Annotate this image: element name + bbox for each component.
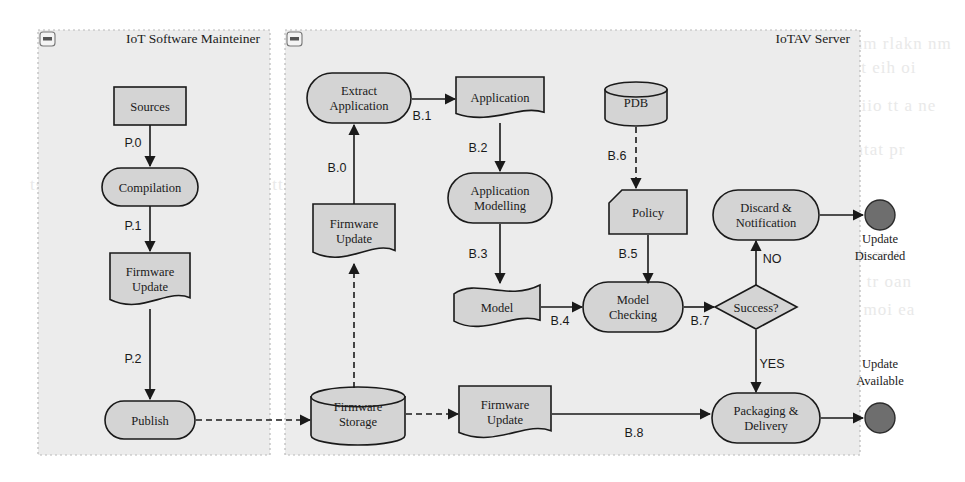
edge-label: B.7 xyxy=(691,314,710,328)
pane-title: IoT Software Mainteiner xyxy=(126,31,260,46)
diagram-canvas: ernai ypsxh den. Tae inyjprevptcnm rlakn… xyxy=(0,0,965,482)
minimize-icon[interactable] xyxy=(40,32,55,46)
svg-text:UpdateAvailable: UpdateAvailable xyxy=(856,357,904,388)
edge-label: P.1 xyxy=(124,219,141,233)
node-label: Sources xyxy=(130,100,170,114)
node-label: ApplicationModelling xyxy=(470,184,530,213)
node-label: Application xyxy=(470,91,530,105)
node-extract_app[interactable]: ExtractApplication xyxy=(307,73,411,123)
node-pdb[interactable]: PDB xyxy=(605,82,667,126)
node-fw_storage[interactable]: FirmwareStorage xyxy=(311,387,405,445)
node-compilation[interactable]: Compilation xyxy=(102,168,198,206)
edge-label: B.6 xyxy=(608,149,627,163)
node-app_model[interactable]: ApplicationModelling xyxy=(448,173,552,223)
node-label: Policy xyxy=(632,206,665,220)
node-label: Success? xyxy=(733,301,779,315)
node-label: FirmwareStorage xyxy=(334,400,383,429)
pane-title: IoTAV Server xyxy=(775,31,850,46)
node-label: Model xyxy=(481,301,514,315)
node-label: Publish xyxy=(131,414,169,428)
edge-label: B.1 xyxy=(413,109,432,123)
node-end_discard[interactable] xyxy=(865,200,895,230)
node-label: Compilation xyxy=(119,181,182,195)
edge-label: B.0 xyxy=(328,161,347,175)
update-available-label: UpdateAvailable xyxy=(856,357,904,388)
node-sources[interactable]: Sources xyxy=(114,87,186,125)
node-label: Discard &Notification xyxy=(736,201,797,230)
update-discarded-label: UpdateDiscarded xyxy=(855,232,906,263)
edge-label: B.8 xyxy=(625,426,644,440)
edge-label: P.0 xyxy=(124,136,141,150)
node-label: PDB xyxy=(624,96,648,110)
node-label: FirmwareUpdate xyxy=(481,398,530,427)
node-publish[interactable]: Publish xyxy=(105,401,195,439)
node-model_check[interactable]: ModelChecking xyxy=(583,282,683,332)
edge-label: P.2 xyxy=(124,352,141,366)
svg-text:UpdateDiscarded: UpdateDiscarded xyxy=(855,232,906,263)
node-policy[interactable]: Policy xyxy=(609,190,687,234)
node-label: FirmwareUpdate xyxy=(330,217,379,246)
node-label: FirmwareUpdate xyxy=(126,265,175,294)
edge-label: B.2 xyxy=(469,141,488,155)
node-discard[interactable]: Discard &Notification xyxy=(713,190,819,240)
minimize-icon[interactable] xyxy=(287,32,302,46)
edge-label: NO xyxy=(763,252,782,266)
edge-label: B.4 xyxy=(551,314,570,328)
node-packaging[interactable]: Packaging &Delivery xyxy=(712,393,820,443)
node-end_avail[interactable] xyxy=(865,403,895,433)
edge-label: B.3 xyxy=(469,247,488,261)
edge-label: YES xyxy=(759,357,784,371)
edge-label: B.5 xyxy=(619,247,638,261)
